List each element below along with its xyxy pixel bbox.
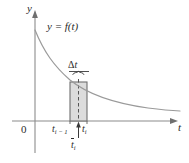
function-curve: [35, 30, 180, 111]
midpoint-pointer-arrowhead-icon: [76, 122, 81, 128]
y-axis-arrowhead-icon: [32, 10, 38, 18]
origin-label: 0: [21, 124, 27, 135]
y-axis-label: y: [27, 3, 32, 14]
delta-t-var: t: [74, 59, 77, 70]
riemann-rectangle-figure: y t 0 y = f(t) Δt ti − 1 ti ti: [0, 0, 189, 163]
t-axis-arrowhead-icon: [170, 118, 178, 124]
figure-canvas: [0, 0, 189, 163]
midpoint-label-t-bar-i: ti: [71, 140, 76, 151]
curve-equation-text: y = f(t): [47, 20, 78, 32]
t-mid-base: t: [71, 140, 74, 150]
tick-label-t-i: ti: [82, 124, 87, 135]
t-left-subscript: i − 1: [55, 128, 68, 135]
t-axis-label: t: [178, 122, 181, 133]
curve-equation-label: y = f(t): [47, 21, 78, 32]
t-right-subscript: i: [85, 128, 87, 135]
tick-label-t-i-minus-1: ti − 1: [52, 124, 68, 135]
t-mid-subscript: i: [74, 144, 76, 151]
delta-t-label: Δt: [68, 60, 77, 70]
